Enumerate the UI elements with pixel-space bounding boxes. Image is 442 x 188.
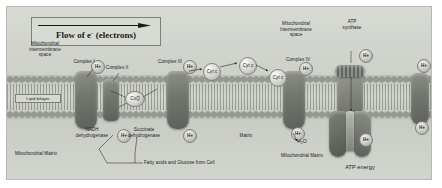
flow-arrow-icon [38,23,152,28]
label-nadh-dehydrogenase: NADH dehydrogenase [69,127,115,138]
figure-card: H+ H+ H+ H+ H+ H+ H+ H+ H+ H+ Cyt c Cyt … [6,6,432,180]
label-mitochondrial-matrix-right: Mitochondrial Matrix [265,153,339,159]
electron-transport-chain-figure: H+ H+ H+ H+ H+ H+ H+ H+ H+ H+ Cyt c Cyt … [0,0,442,188]
label-atp-synthase: ATP synthase [335,19,369,30]
label-succinate-dehydrogenase: Succinate dehydrogenase [121,127,167,138]
label-mitochondrial-matrix-left: Mitochondrial Matrix [15,151,85,157]
label-complex-iii: Complex III [153,59,187,65]
flow-of-electrons-label: Flow of e– (electrons) [32,30,160,40]
label-lipid-bilayer: Lipid bilayer [15,94,61,103]
label-intermembrane-space-left: Mitochondrial intermembrane space [13,41,77,58]
label-atp-energy: ATP energy [331,165,389,171]
label-fatty-acids-glucose: Fatty acids and Glucose from Cell [144,160,264,166]
label-intermembrane-space-right: Mitochondrial Intermembrane space [263,21,329,38]
label-complex-i: Complex I [69,59,99,65]
label-water-product: H₂O [297,139,317,145]
label-complex-iv: Complex IV [281,57,315,63]
flow-text-suffix: (electrons) [93,30,136,40]
label-matrix-center: Matrix [229,133,263,139]
label-complex-ii: Complex II [101,65,133,71]
flow-text-main: Flow of e [56,30,91,40]
